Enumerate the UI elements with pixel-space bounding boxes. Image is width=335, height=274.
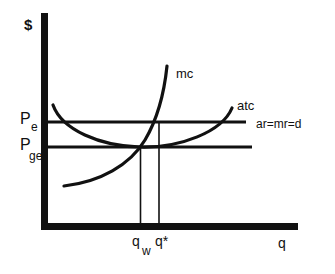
pe-label-sub: e bbox=[31, 120, 38, 134]
atc-label: atc bbox=[237, 98, 255, 113]
x-axis-label: q bbox=[278, 235, 286, 251]
pe-label: P e bbox=[20, 110, 38, 134]
mc-label: mc bbox=[176, 66, 194, 81]
qw-label-main: q bbox=[132, 233, 140, 249]
mc-curve bbox=[64, 66, 167, 186]
qw-label: q w bbox=[132, 233, 151, 258]
economics-diagram: $ mc atc ar=mr=d P e P ge q w q* q bbox=[0, 0, 335, 274]
y-axis-label: $ bbox=[24, 16, 33, 33]
diagram-canvas: $ mc atc ar=mr=d P e P ge q w q* q bbox=[0, 0, 335, 274]
atc-curve bbox=[53, 105, 232, 147]
pge-label: P ge bbox=[20, 136, 43, 163]
demand-label: ar=mr=d bbox=[256, 117, 301, 131]
pge-label-sub: ge bbox=[29, 149, 43, 163]
qw-label-sub: w bbox=[141, 244, 151, 258]
pe-label-main: P bbox=[20, 110, 31, 127]
qstar-label: q* bbox=[155, 233, 169, 249]
